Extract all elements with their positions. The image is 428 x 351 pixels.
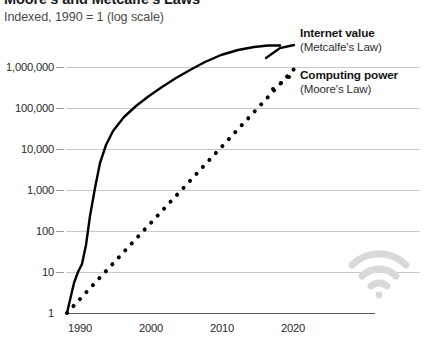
legend-computing-title: Computing power [300,68,398,82]
legend-computing-subtitle: (Moore's Law) [300,82,398,96]
series-internet-value-line [67,46,280,314]
legend-item-internet-value: Internet value (Metcalfe's Law) [300,26,382,54]
legend-internet-title: Internet value [300,26,382,40]
legend-internet-subtitle: (Metcalfe's Law) [300,40,382,54]
series-computing-power-line [67,68,295,313]
legend-item-computing-power: Computing power (Moore's Law) [300,68,398,96]
legend-leader-internet [266,45,294,58]
legend-leader-computing [271,75,291,91]
